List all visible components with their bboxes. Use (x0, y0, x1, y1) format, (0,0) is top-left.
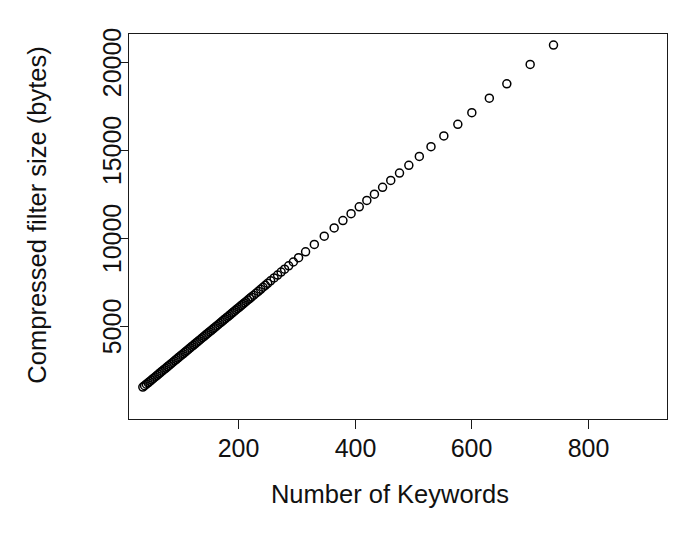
data-point (355, 203, 363, 211)
data-point (454, 120, 462, 128)
y-tick-label-15000: 15000 (98, 116, 126, 186)
data-point (310, 240, 318, 248)
y-axis-title: Compressed filter size (bytes) (23, 46, 51, 383)
data-point (387, 176, 395, 184)
data-point (370, 190, 378, 198)
data-point (363, 196, 371, 204)
data-point (295, 254, 303, 262)
x-axis-title: Number of Keywords (271, 480, 509, 508)
plot-canvas: 20000 15000 10000 5000 Compressed filter… (0, 0, 699, 533)
data-point (330, 224, 338, 232)
data-point (347, 210, 355, 218)
data-point-group (139, 41, 558, 391)
x-tick-label-400: 400 (335, 434, 377, 462)
x-axis-tick-labels: 200 400 600 800 (218, 434, 610, 462)
y-axis-ticks (120, 63, 129, 327)
data-point (302, 248, 310, 256)
x-tick-label-200: 200 (218, 434, 260, 462)
data-point (405, 161, 413, 169)
x-tick-label-800: 800 (568, 434, 610, 462)
data-point (396, 169, 404, 177)
x-tick-label-600: 600 (451, 434, 493, 462)
data-point (379, 183, 387, 191)
y-tick-label-10000: 10000 (98, 204, 126, 274)
data-point (550, 41, 558, 49)
data-point (503, 80, 511, 88)
y-tick-label-20000: 20000 (98, 28, 126, 98)
y-tick-label-5000: 5000 (98, 299, 126, 355)
scatter-plot-figure: 20000 15000 10000 5000 Compressed filter… (0, 0, 699, 533)
x-axis-ticks (239, 420, 589, 429)
data-point (526, 60, 534, 68)
data-point (339, 217, 347, 225)
data-point (427, 143, 435, 151)
data-point (485, 94, 493, 102)
y-axis-tick-labels: 20000 15000 10000 5000 (98, 28, 126, 355)
plot-frame (129, 34, 668, 420)
data-point (415, 152, 423, 160)
data-point (468, 109, 476, 117)
data-point (440, 132, 448, 140)
data-point (320, 232, 328, 240)
